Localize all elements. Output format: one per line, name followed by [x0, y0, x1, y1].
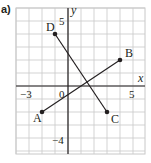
grid-border [16, 8, 145, 154]
y-tick-5: 5 [59, 15, 65, 27]
coordinate-plane: ABCD x y 0 −3 5 5 −4 [0, 0, 151, 163]
point-label-A: A [33, 111, 42, 125]
point-label-C: C [111, 112, 119, 126]
point-label-B: B [125, 46, 133, 60]
point-label-D: D [46, 20, 55, 34]
x-axis-label: x [137, 71, 144, 85]
point-B [118, 58, 123, 63]
x-tick-5: 5 [129, 88, 135, 100]
origin-label: 0 [59, 88, 65, 100]
grid-lines [16, 8, 145, 154]
y-tick-neg4: −4 [52, 134, 64, 146]
point-C [105, 110, 110, 115]
x-tick-neg3: −3 [20, 88, 32, 100]
y-axis-label: y [70, 3, 77, 17]
